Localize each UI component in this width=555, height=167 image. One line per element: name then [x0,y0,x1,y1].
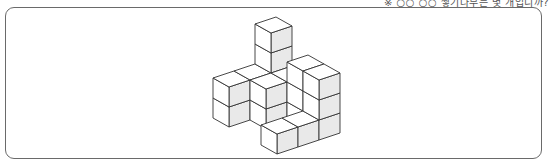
cube [255,17,292,53]
cube [303,64,340,100]
cube-stack-figure [0,0,555,167]
